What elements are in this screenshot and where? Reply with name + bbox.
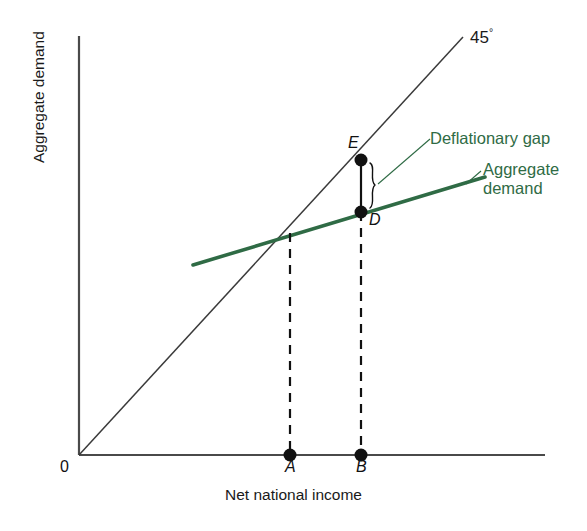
deflationary-gap-brace — [370, 163, 375, 208]
deflationary-gap-label: Deflationary gap — [430, 129, 550, 148]
aggregate-demand-line — [193, 177, 485, 265]
forty-five-degree-line — [79, 37, 463, 455]
aggregate-demand-label-line2: demand — [483, 179, 543, 197]
leader-deflationary-gap — [378, 139, 430, 184]
point-label-e: E — [348, 134, 359, 153]
point-marker-D — [355, 206, 368, 219]
origin-label: 0 — [60, 458, 69, 477]
point-marker-E — [355, 154, 368, 167]
aggregate-demand-label: Aggregatedemand — [483, 160, 559, 199]
forty-five-degree-value: 45 — [470, 28, 489, 47]
point-label-d: D — [369, 211, 381, 230]
aggregate-demand-label-line1: Aggregate — [483, 160, 559, 178]
forty-five-degree-label: 45° — [470, 28, 493, 48]
point-label-a: A — [285, 458, 296, 477]
y-axis-title: Aggregate demand — [30, 0, 48, 163]
x-axis-title: Net national income — [0, 486, 587, 504]
chart-canvas — [0, 0, 587, 531]
point-label-b: B — [356, 458, 367, 477]
deflationary-gap-figure: Aggregate demand Net national income 0 A… — [0, 0, 587, 531]
degree-symbol: ° — [489, 26, 493, 38]
